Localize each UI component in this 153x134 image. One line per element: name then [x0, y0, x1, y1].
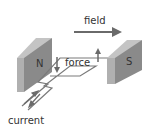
force-label: force: [65, 57, 90, 68]
south-magnet: [107, 40, 142, 84]
force-arrow-up: [95, 48, 101, 62]
motor-effect-diagram: field N force S current: [0, 0, 153, 134]
field-arrow: [74, 27, 122, 37]
north-pole-label: N: [36, 58, 43, 69]
field-label: field: [84, 15, 106, 26]
current-label: current: [8, 115, 44, 126]
south-pole-label: S: [126, 56, 132, 67]
